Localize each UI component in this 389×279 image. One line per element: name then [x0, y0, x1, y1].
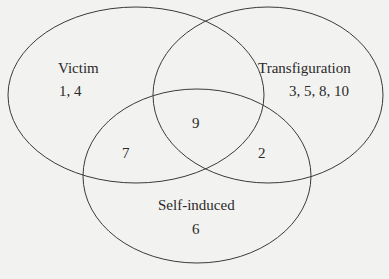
transfiguration-selfinduced-intersection: 2 — [258, 145, 266, 162]
victim-only-values: 1, 4 — [59, 83, 82, 100]
victim-label: Victim — [58, 60, 99, 77]
transfiguration-label: Transfiguration — [258, 60, 351, 77]
all-three-intersection: 9 — [192, 115, 200, 132]
self-induced-only-values: 6 — [192, 221, 200, 238]
self-induced-label: Self-induced — [158, 197, 235, 214]
transfiguration-only-values: 3, 5, 8, 10 — [289, 83, 349, 100]
victim-selfinduced-intersection: 7 — [122, 145, 130, 162]
victim-ellipse — [8, 7, 264, 183]
